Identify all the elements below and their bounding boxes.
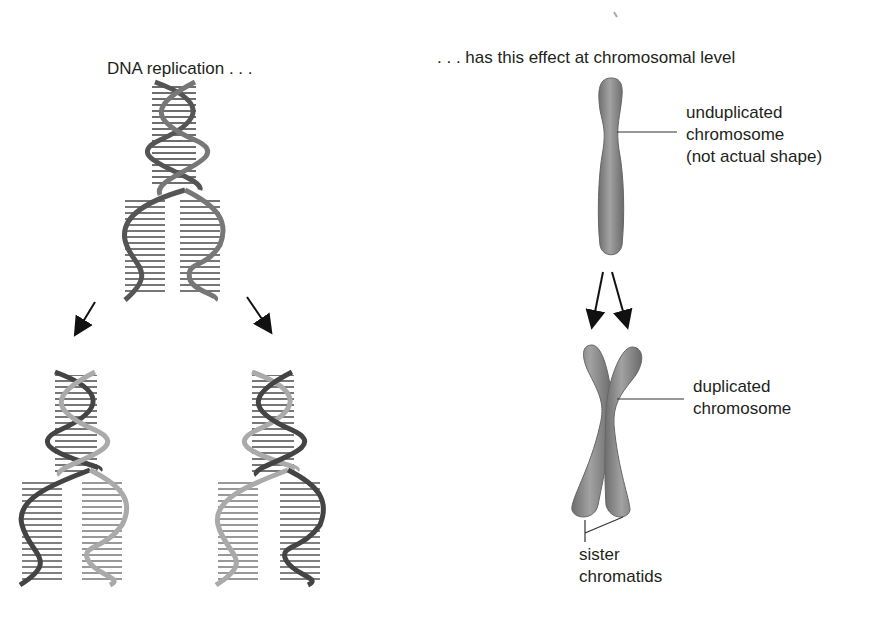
sister-label-1: sister (579, 544, 620, 565)
unduplicated-label-3: (not actual shape) (686, 146, 822, 167)
daughter-dna-helix-2 (216, 372, 323, 585)
unduplicated-label-2: chromosome (686, 124, 784, 145)
duplicated-label-1: duplicated (693, 376, 771, 397)
diagram-art (0, 0, 884, 624)
duplicated-label-2: chromosome (693, 398, 791, 419)
sister-label-2: chromatids (579, 566, 662, 587)
unduplicated-chromosome (598, 78, 623, 255)
arrow-right (247, 297, 268, 328)
dna-replication-title: DNA replication . . . (107, 58, 253, 79)
arrow-left (78, 302, 95, 330)
parent-dna-helix (124, 82, 223, 300)
daughter-dna-helix-1 (20, 372, 127, 585)
duplicated-chromosome (572, 345, 642, 517)
sister-chromatids-bracket (585, 517, 623, 542)
unduplicated-label-1: unduplicated (686, 102, 782, 123)
smudge (614, 12, 617, 17)
arrow-chrom-right (612, 272, 626, 322)
arrow-chrom-left (593, 272, 603, 322)
chromosomal-level-title: . . . has this effect at chromosomal lev… (437, 47, 735, 68)
